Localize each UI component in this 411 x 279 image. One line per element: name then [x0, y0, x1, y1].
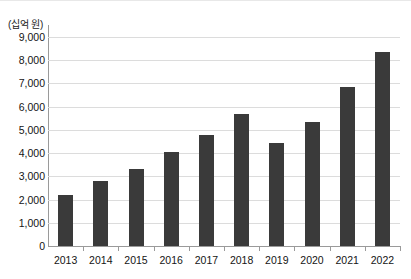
x-axis-tick-label: 2022	[359, 254, 405, 266]
bar[interactable]	[340, 87, 355, 246]
x-axis-tick-mark	[400, 246, 401, 251]
y-axis-tick-label: 7,000	[5, 77, 45, 89]
x-axis-tick-mark	[118, 246, 119, 251]
bar[interactable]	[129, 169, 144, 246]
y-axis-tick-label: 2,000	[5, 194, 45, 206]
bar[interactable]	[164, 152, 179, 246]
bar[interactable]	[199, 135, 214, 246]
bar[interactable]	[234, 114, 249, 246]
x-axis-tick-mark	[83, 246, 84, 251]
x-axis-tick-mark	[330, 246, 331, 251]
y-axis-tick-label: 8,000	[5, 54, 45, 66]
y-axis-unit-caption: (십억 원)	[8, 16, 43, 31]
bar[interactable]	[375, 52, 390, 246]
plot-area	[48, 37, 400, 246]
bar-chart: (십억 원) 01,0002,0003,0004,0005,0006,0007,…	[0, 0, 411, 279]
bar[interactable]	[93, 181, 108, 246]
x-axis-tick-mark	[224, 246, 225, 251]
bar[interactable]	[58, 195, 73, 246]
y-axis-tick-label: 0	[5, 240, 45, 252]
x-axis-tick-mark	[154, 246, 155, 251]
y-axis-tick-label: 3,000	[5, 170, 45, 182]
x-axis-tick-mark	[365, 246, 366, 251]
y-axis-tick-label: 6,000	[5, 101, 45, 113]
y-axis-tick-label: 4,000	[5, 147, 45, 159]
y-axis-tick-label: 5,000	[5, 124, 45, 136]
x-axis-tick-mark	[189, 246, 190, 251]
x-axis-tick-mark	[259, 246, 260, 251]
bars-series	[48, 37, 400, 246]
y-axis-tick-label: 1,000	[5, 217, 45, 229]
y-axis-tick-label: 9,000	[5, 31, 45, 43]
bar[interactable]	[305, 122, 320, 246]
bar[interactable]	[269, 143, 284, 246]
x-axis-tick-mark	[294, 246, 295, 251]
